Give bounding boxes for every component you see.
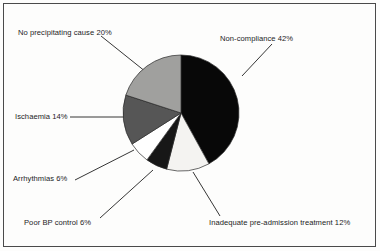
pie-slices: Non-compliance 42%Inadequate pre-admissi… — [123, 55, 239, 171]
slice-label-arrhythmias: Arrhythmias 6% — [13, 174, 67, 183]
slice-label-poor-bp-control: Poor BP control 6% — [24, 218, 91, 227]
slice-label-non-compliance: Non-compliance 42% — [220, 34, 293, 43]
leader-line-inadequate — [193, 172, 220, 216]
leader-line-non-compliance — [242, 44, 272, 76]
leader-line-poor-bp — [100, 170, 153, 218]
figure-frame: Non-compliance 42%Inadequate pre-admissi… — [3, 3, 376, 247]
figure-panel: Non-compliance 42%Inadequate pre-admissi… — [0, 0, 380, 251]
leader-line-arrhythmias — [75, 150, 134, 180]
slice-label-ischaemia: Ischaemia 14% — [15, 112, 68, 121]
pie-chart: Non-compliance 42%Inadequate pre-admissi… — [4, 4, 377, 248]
slice-label-no-precipitating-cause: No precipitating cause 20% — [18, 28, 112, 37]
slice-label-inadequate-pre-admission-treatment: Inadequate pre-admission treatment 12% — [209, 218, 350, 227]
